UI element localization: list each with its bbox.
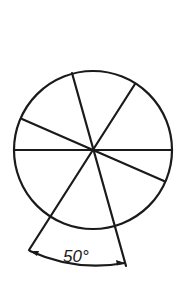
- angle-label: 50°: [63, 247, 89, 266]
- circle-diagram: 50°: [0, 0, 192, 289]
